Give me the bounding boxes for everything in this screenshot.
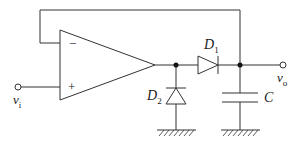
input-label: vi	[13, 93, 21, 110]
circuit-diagram: − + vi vo D1 D2 C	[0, 0, 302, 147]
capacitor-label: C	[264, 91, 273, 105]
junction-dot	[174, 63, 179, 68]
d1-label: D1	[204, 38, 219, 55]
input-terminal-icon	[15, 84, 21, 90]
junction-dot	[238, 63, 243, 68]
d2-label: D2	[147, 89, 162, 106]
opamp-minus-label: −	[69, 37, 76, 50]
output-terminal-icon	[280, 62, 286, 68]
d2-diode-icon	[166, 88, 186, 104]
opamp-plus-label: +	[68, 80, 75, 93]
output-label: vo	[277, 71, 287, 88]
circuit-svg	[0, 0, 302, 147]
d1-diode-icon	[198, 56, 218, 74]
